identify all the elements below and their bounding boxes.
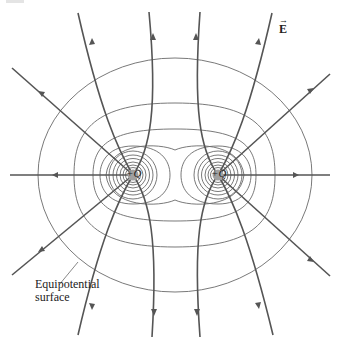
electric-field-label: → E (279, 22, 287, 37)
field-line-left-down-inner (133, 175, 154, 337)
electric-field-diagram: → E +Q +Q Equipotential surface (0, 0, 340, 345)
field-line-left-upper-diagonal (12, 68, 133, 175)
field-line-left-lower-diagonal (12, 175, 133, 275)
arrow-right-icon (293, 172, 299, 178)
charge-label-right: +Q (211, 167, 226, 179)
arrow-left-icon (52, 172, 58, 178)
field-line-right-down-inner (197, 175, 218, 337)
arrow-up-4-icon (255, 38, 261, 45)
vector-arrow-symbol: → (279, 15, 288, 25)
arrow-down-4-icon (255, 302, 261, 309)
charge-label-left: +Q (126, 167, 141, 179)
callout-line-2: surface (35, 291, 100, 304)
arrow-down-1-icon (89, 303, 95, 310)
field-line-left-up-inner (133, 12, 153, 175)
equipotential-callout-label: Equipotential surface (35, 278, 100, 304)
arrow-up-1-icon (89, 38, 95, 45)
arrow-down-2-icon (151, 309, 157, 316)
field-line-right-up-inner (197, 12, 218, 175)
